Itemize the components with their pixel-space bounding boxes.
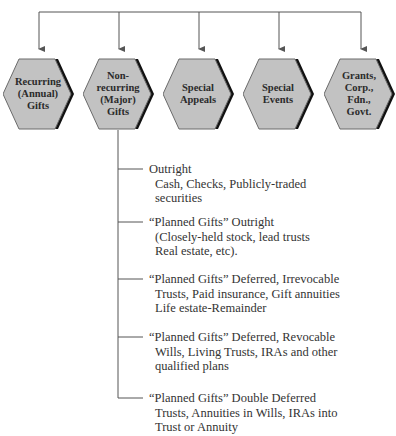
branch-item-detail: Cash, Checks, Publicly-traded securities [149, 177, 306, 206]
category-label: Non- recurring (Major) Gifts [89, 57, 147, 131]
category-special-appeals: Special Appeals [163, 57, 235, 131]
branch-item-title: “Planned Gifts” Deferred, Revocable [149, 330, 338, 345]
category-label: Special Appeals [169, 57, 227, 131]
branch-item-title: “Planned Gifts” Outright [149, 215, 310, 230]
branch-item-detail: Trusts, Paid insurance, Gift annuities L… [149, 287, 340, 316]
category-grants: Grants, Corp., Fdn., Govt. [324, 57, 396, 131]
branch-item-detail: (Closely-held stock, lead trusts Real es… [149, 230, 310, 259]
branch-item-planned-outright: “Planned Gifts” Outright (Closely-held s… [149, 215, 310, 259]
branch-item-outright: Outright Cash, Checks, Publicly-traded s… [149, 162, 306, 206]
branch-item-title: “Planned Gifts” Deferred, Irrevocable [149, 272, 340, 287]
branch-item-planned-deferred-irrevocable: “Planned Gifts” Deferred, Irrevocable Tr… [149, 272, 340, 316]
branch-item-planned-deferred-revocable: “Planned Gifts” Deferred, Revocable Will… [149, 330, 338, 374]
branch-item-title: Outright [149, 162, 306, 177]
category-label: Grants, Corp., Fdn., Govt. [330, 57, 388, 131]
category-label: Special Events [249, 57, 307, 131]
branch-item-planned-double-deferred: “Planned Gifts” Double Deferred Trusts, … [149, 391, 338, 435]
category-special-events: Special Events [243, 57, 315, 131]
category-label: Recurring (Annual) Gifts [9, 57, 67, 131]
category-nonrecurring-gifts: Non- recurring (Major) Gifts [83, 57, 155, 131]
branch-item-detail: Trusts, Annuities in Wills, IRAs into Tr… [149, 406, 338, 435]
branch-item-title: “Planned Gifts” Double Deferred [149, 391, 338, 406]
category-recurring-gifts: Recurring (Annual) Gifts [3, 57, 75, 131]
branch-item-detail: Wills, Living Trusts, IRAs and other qua… [149, 345, 338, 374]
